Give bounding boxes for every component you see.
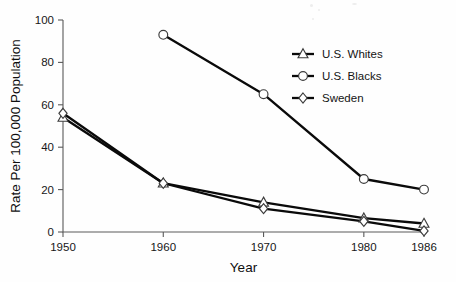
y-tick-label-40: 40 xyxy=(41,141,54,153)
scan-artifact-speck xyxy=(310,4,313,7)
x-axis-title: Year xyxy=(230,260,258,275)
scan-artifact-speck xyxy=(318,9,320,11)
series-line-u-s-whites xyxy=(63,118,424,224)
x-tick-label-1950: 1950 xyxy=(50,241,76,253)
scan-artifact-speck xyxy=(352,3,357,5)
y-tick-label-60: 60 xyxy=(41,99,54,111)
scan-artifact-speck xyxy=(312,18,314,20)
y-tick-label-0: 0 xyxy=(48,226,54,238)
legend-label-0: U.S. Whites xyxy=(322,48,383,60)
legend-marker-circle-icon xyxy=(299,72,308,81)
datapoint-u-s-blacks-1980 xyxy=(359,175,368,184)
y-tick-label-100: 100 xyxy=(35,14,54,26)
datapoint-u-s-blacks-1970 xyxy=(259,90,268,99)
chart-canvas: 02040608010019501960197019801986YearRate… xyxy=(0,0,456,282)
legend-label-1: U.S. Blacks xyxy=(322,70,382,82)
series-line-sweden xyxy=(63,113,424,231)
legend-label-2: Sweden xyxy=(322,92,364,104)
x-tick-label-1980: 1980 xyxy=(351,241,377,253)
y-tick-label-20: 20 xyxy=(41,184,54,196)
legend-marker-diamond-icon xyxy=(299,93,307,103)
y-tick-label-80: 80 xyxy=(41,56,54,68)
x-tick-label-1986: 1986 xyxy=(411,241,437,253)
x-tick-label-1960: 1960 xyxy=(150,241,176,253)
y-axis-title: Rate Per 100,000 Population xyxy=(8,39,23,212)
line-chart-figure: 02040608010019501960197019801986YearRate… xyxy=(0,0,456,282)
datapoint-u-s-blacks-1986 xyxy=(420,185,429,194)
x-tick-label-1970: 1970 xyxy=(251,241,277,253)
datapoint-u-s-blacks-1960 xyxy=(159,30,168,39)
series-line-u-s-blacks xyxy=(163,35,424,190)
